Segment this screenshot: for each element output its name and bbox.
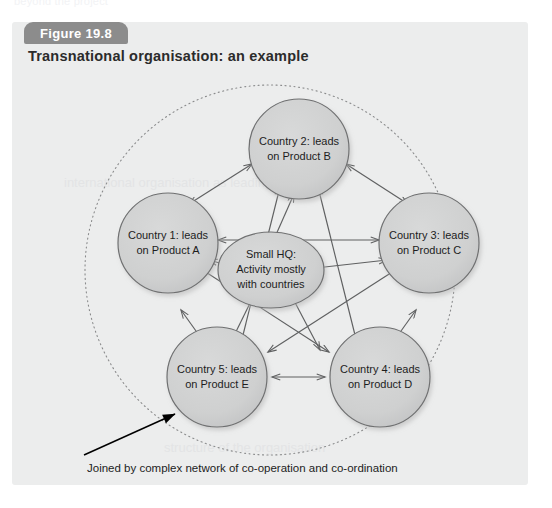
label-country2-line2: on Product B — [267, 150, 331, 162]
label-country4-line2: on Product D — [348, 378, 412, 390]
figure-panel: Figure 19.8 Transnational organisation: … — [12, 22, 528, 485]
label-country1-line2: on Product A — [137, 244, 201, 256]
watermark-line-top: international organisation as leading — [64, 175, 272, 190]
label-hq-line1: Small HQ: — [246, 248, 296, 260]
edge-country2-country3 — [346, 164, 408, 204]
figure-caption: Joined by complex network of co-operatio… — [87, 462, 398, 474]
label-country2-line1: Country 2: leads — [259, 135, 340, 147]
node-country5[interactable] — [167, 327, 267, 427]
label-hq-line3: with countries — [236, 278, 305, 290]
node-country3[interactable] — [379, 193, 479, 293]
label-country5-line2: on Product E — [185, 378, 249, 390]
label-hq-line2: Activity mostly — [236, 263, 306, 275]
node-country4[interactable] — [330, 327, 430, 427]
label-country3-line2: on Product C — [397, 244, 461, 256]
transnational-organisation-diagram: international organisation as leading st… — [12, 22, 528, 485]
label-country5-line1: Country 5: leads — [177, 363, 258, 375]
label-country4-line1: Country 4: leads — [340, 363, 421, 375]
node-country1[interactable] — [118, 193, 218, 293]
clipped-page-text: beyond the project — [14, 0, 314, 7]
node-country2[interactable] — [249, 99, 349, 199]
label-country3-line1: Country 3: leads — [389, 229, 470, 241]
label-country1-line1: Country 1: leads — [128, 229, 209, 241]
caption-pointer-arrow — [84, 414, 175, 455]
